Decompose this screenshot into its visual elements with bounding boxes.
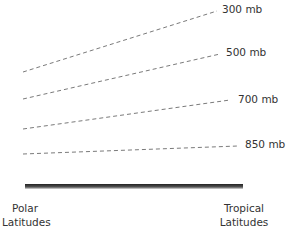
tropical-label-line1: Tropical xyxy=(218,201,270,215)
tropical-latitudes-label: Tropical Latitudes xyxy=(218,201,270,229)
polar-latitudes-label: Polar Latitudes xyxy=(2,201,48,229)
isobar-label: 300 mb xyxy=(222,3,262,16)
surface-bar xyxy=(25,184,243,189)
polar-label-line2: Latitudes xyxy=(2,215,48,229)
isobar-label: 850 mb xyxy=(245,138,285,151)
isobar-lines xyxy=(23,11,238,154)
isobar-line xyxy=(23,11,217,72)
isobar-line xyxy=(23,146,238,154)
tropical-label-line2: Latitudes xyxy=(218,215,270,229)
polar-label-line1: Polar xyxy=(2,201,48,215)
isobar-line xyxy=(23,54,220,99)
isobar-label: 700 mb xyxy=(238,93,278,106)
isobar-label: 500 mb xyxy=(226,46,266,59)
diagram-canvas xyxy=(0,0,290,234)
isobar-line xyxy=(23,100,230,129)
